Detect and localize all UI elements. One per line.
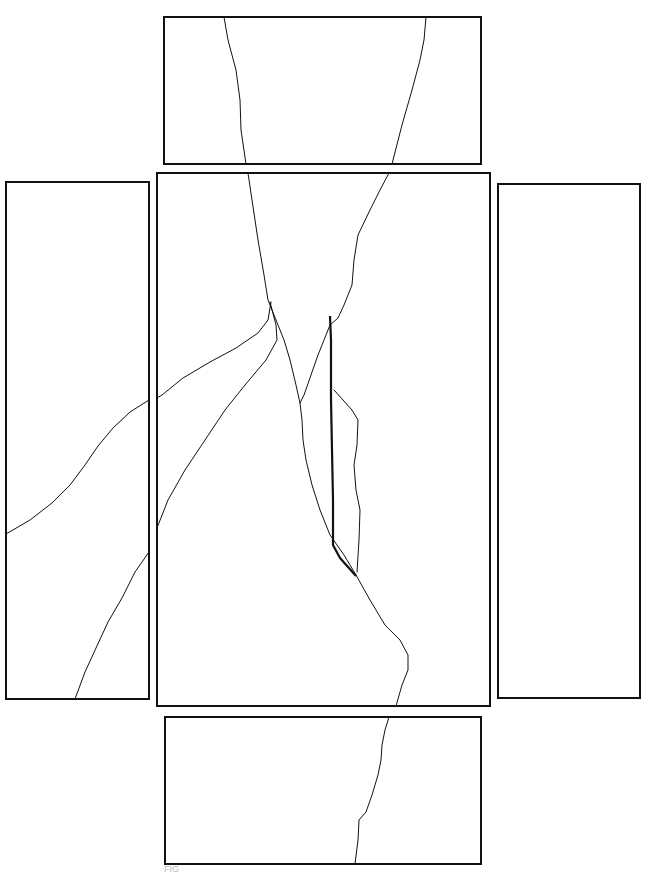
top-crack-right (392, 17, 426, 164)
bottom-panel (165, 717, 481, 864)
bottom-crack (355, 717, 389, 864)
center-crack-left-main (248, 173, 408, 706)
top-crack-left (224, 17, 246, 164)
center-crack-branch-left (157, 302, 271, 398)
center-crack-thick-vertical (330, 316, 356, 576)
center-panel (157, 173, 490, 706)
left-panel (6, 182, 149, 699)
center-crack-right-main (330, 173, 389, 325)
left-crack-upper (6, 400, 149, 534)
center-crack-loop (334, 390, 360, 572)
center-crack-branch-a (300, 325, 330, 403)
right-panel (498, 184, 640, 698)
top-panel (164, 17, 481, 164)
crack-diagram (0, 0, 654, 876)
center-crack-branch-left-lower (157, 302, 277, 528)
figure-label: FIG (164, 864, 179, 874)
left-crack-lower (75, 552, 149, 699)
